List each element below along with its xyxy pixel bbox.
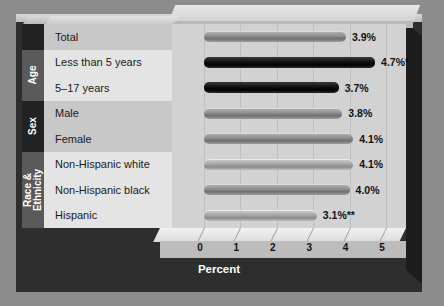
- bar-value-label: 4.0%: [356, 184, 380, 196]
- category-label: Non-Hispanic black: [44, 177, 172, 203]
- bar: [204, 82, 339, 93]
- category-label: Total: [44, 24, 172, 50]
- category-label: 5–17 years: [44, 75, 172, 101]
- gridline: [277, 24, 278, 228]
- category-label-text: Total: [55, 31, 78, 43]
- category-label: Male: [44, 101, 172, 127]
- bar-chart: TotalLess than 5 years5–17 yearsMaleFema…: [0, 0, 444, 306]
- category-label: Less than 5 years: [44, 50, 172, 76]
- bar: [204, 210, 317, 221]
- gridline: [240, 24, 241, 228]
- category-label-text: Hispanic: [55, 209, 97, 221]
- group-label-block: Race &Ethnicity: [22, 152, 44, 229]
- bar-value-label: 4.1%: [359, 158, 383, 170]
- x-axis-deck: [153, 228, 406, 242]
- category-label-text: Female: [55, 133, 92, 145]
- category-label-text: Non-Hispanic white: [55, 158, 150, 170]
- bar: [204, 31, 346, 42]
- gridline: [204, 24, 205, 228]
- x-axis-tick-label: 3: [306, 242, 312, 253]
- category-label-text: 5–17 years: [55, 82, 109, 94]
- x-axis-tick-label: 1: [234, 242, 240, 253]
- bar-value-label: 4.1%: [359, 133, 383, 145]
- x-axis-tick-label: 5: [379, 242, 385, 253]
- x-axis-tick-label: 2: [270, 242, 276, 253]
- x-axis-tick-label: 4: [343, 242, 349, 253]
- bar: [204, 184, 350, 195]
- category-label: Non-Hispanic white: [44, 152, 172, 178]
- bar: [204, 159, 353, 170]
- group-label-block: [22, 24, 44, 50]
- gridline: [313, 24, 314, 228]
- x-axis-title: Percent: [16, 263, 422, 275]
- x-axis-tick-label: 0: [197, 242, 203, 253]
- bar: [204, 108, 342, 119]
- category-label: Hispanic: [44, 203, 172, 229]
- bar-value-label: 3.7%: [345, 82, 369, 94]
- group-label-block: Sex: [22, 101, 44, 152]
- plot-area: [160, 24, 406, 228]
- bar-value-label: 3.1%**: [323, 209, 355, 221]
- bar-value-label: 4.7%*: [381, 56, 409, 68]
- group-label-text: Race &Ethnicity: [23, 169, 43, 211]
- bar-value-label: 3.9%: [352, 31, 376, 43]
- category-label-column: TotalLess than 5 years5–17 yearsMaleFema…: [44, 24, 172, 228]
- gridline: [386, 24, 387, 228]
- group-label-column: AgeSexRace &Ethnicity: [22, 24, 44, 228]
- group-label-block: Age: [22, 50, 44, 101]
- bar-value-label: 3.8%: [348, 107, 372, 119]
- category-label-text: Non-Hispanic black: [55, 184, 150, 196]
- category-label: Female: [44, 126, 172, 152]
- gridline: [350, 24, 351, 228]
- group-label-text: Sex: [28, 117, 38, 135]
- bar: [204, 133, 353, 144]
- category-label-text: Less than 5 years: [55, 56, 142, 68]
- bar: [204, 57, 375, 68]
- group-label-text: Age: [28, 66, 38, 85]
- category-label-text: Male: [55, 107, 79, 119]
